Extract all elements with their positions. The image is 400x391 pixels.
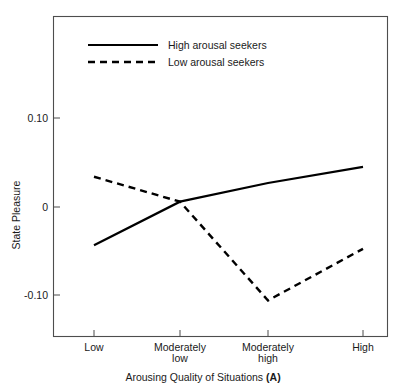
legend-label-low-arousal-seekers: Low arousal seekers xyxy=(168,56,264,68)
x-tick-label-0-line1: Low xyxy=(84,341,104,353)
y-tick-label-2: -0.10 xyxy=(24,289,48,301)
chart-figure: 0.10 0 -0.10 State Pleasure Low Moderate… xyxy=(0,0,400,391)
series-line-low-arousal-seekers xyxy=(94,177,363,301)
x-axis-title: Arousing Quality of Situations (A) xyxy=(125,371,280,383)
x-tick-label-2-line2: high xyxy=(258,352,278,364)
x-axis-title-text: Arousing Quality of Situations xyxy=(125,371,266,383)
y-axis-ticks xyxy=(54,118,61,295)
x-axis-title-bold: (A) xyxy=(266,371,281,383)
x-axis-ticks xyxy=(94,330,363,337)
line-chart: 0.10 0 -0.10 State Pleasure Low Moderate… xyxy=(0,0,400,391)
series-line-high-arousal-seekers xyxy=(94,167,363,245)
x-tick-label-3-line1: High xyxy=(352,341,374,353)
y-tick-label-0: 0.10 xyxy=(28,112,49,124)
x-tick-label-1-line2: low xyxy=(172,352,188,364)
y-axis-title: State Pleasure xyxy=(10,180,22,249)
y-tick-label-1: 0 xyxy=(42,201,48,213)
chart-legend: High arousal seekers Low arousal seekers xyxy=(88,39,267,68)
legend-label-high-arousal-seekers: High arousal seekers xyxy=(168,39,267,51)
